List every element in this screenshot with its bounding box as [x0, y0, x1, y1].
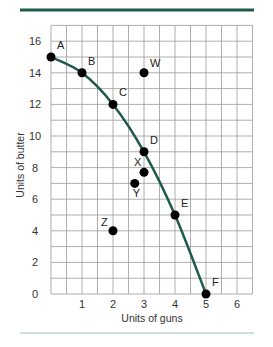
- point-label: B: [88, 55, 95, 67]
- x-axis-label: Units of guns: [121, 312, 182, 324]
- x-tick-label: 5: [203, 298, 209, 310]
- y-axis-label: Units of butter: [14, 132, 26, 198]
- point-label: C: [119, 86, 127, 98]
- point-label: Y: [133, 187, 141, 199]
- point-label: E: [181, 197, 188, 209]
- point-y: Y: [130, 179, 141, 200]
- point-label: F: [212, 276, 219, 288]
- y-tick-label: 16: [29, 35, 41, 47]
- x-tick-label: 3: [141, 298, 147, 310]
- y-axis-ticks: 0246810121416: [29, 35, 41, 300]
- point-b: B: [78, 55, 96, 78]
- point-label: W: [150, 57, 161, 69]
- point-marker: [109, 100, 118, 109]
- point-d: D: [140, 134, 159, 157]
- point-marker: [109, 226, 118, 235]
- x-tick-label: 4: [172, 298, 178, 310]
- point-label: A: [57, 39, 65, 51]
- y-tick-label: 2: [32, 256, 38, 268]
- point-x: X: [134, 156, 149, 177]
- x-tick-label: 1: [79, 298, 85, 310]
- y-tick-label: 8: [32, 162, 38, 174]
- x-axis-ticks: 123456: [79, 298, 240, 310]
- y-tick-label: 4: [32, 225, 38, 237]
- y-tick-label: 10: [29, 130, 41, 142]
- point-label: X: [134, 156, 142, 168]
- y-tick-label: 0: [32, 288, 38, 300]
- ppf-chart: 0246810121416 123456 Units of butter Uni…: [0, 0, 273, 347]
- point-z: Z: [101, 216, 118, 236]
- point-label: Z: [101, 216, 108, 228]
- point-label: D: [150, 134, 158, 146]
- point-marker: [140, 68, 149, 77]
- x-tick-label: 2: [110, 298, 116, 310]
- y-tick-label: 14: [29, 67, 41, 79]
- point-marker: [47, 53, 56, 62]
- point-marker: [140, 168, 149, 177]
- y-tick-label: 12: [29, 98, 41, 110]
- point-marker: [202, 290, 211, 299]
- point-c: C: [109, 86, 128, 109]
- point-marker: [78, 68, 87, 77]
- x-tick-label: 6: [234, 298, 240, 310]
- point-marker: [140, 147, 149, 156]
- y-tick-label: 6: [32, 193, 38, 205]
- point-w: W: [140, 57, 162, 78]
- point-marker: [171, 211, 180, 220]
